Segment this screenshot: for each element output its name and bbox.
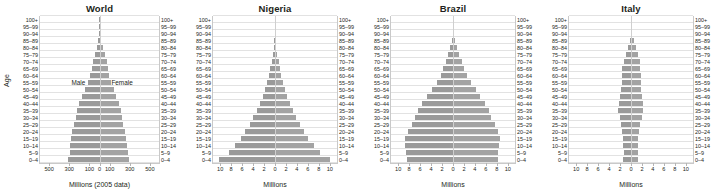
age-tick-label: 55–59 (161, 80, 176, 86)
age-tick-label: 80–84 (374, 45, 389, 51)
bar-female (631, 156, 638, 162)
age-tick-label: 40–44 (552, 101, 567, 107)
age-tick-label: 35–39 (374, 108, 389, 114)
bar-female (100, 128, 126, 134)
age-tick-label: 25–29 (161, 122, 176, 128)
age-tick-label: 95–99 (695, 24, 710, 30)
population-pyramid-figure: Age World0–45–910–1415–1920–2425–2930–34… (0, 0, 720, 191)
age-tick-label: 0–4 (517, 157, 526, 163)
bar-male (446, 58, 453, 64)
age-tick-label: 90–94 (695, 31, 710, 37)
age-tick-label: 75–79 (161, 52, 176, 58)
age-tick-label: 20–24 (374, 129, 389, 135)
age-tick-label: 90–94 (23, 31, 38, 37)
age-tick-label: 20–24 (161, 129, 176, 135)
age-tick-label: 40–44 (196, 101, 211, 107)
x-tick-label: 6 (662, 166, 665, 172)
bar-male (624, 58, 631, 64)
x-tick-label: 8 (317, 166, 320, 172)
bar-male (267, 79, 275, 85)
x-tick-label: 0 (98, 166, 101, 172)
bar-female (100, 156, 129, 162)
x-tick-label: 4 (651, 166, 654, 172)
age-tick-label: 50–54 (695, 87, 710, 93)
bar-male (622, 79, 631, 85)
bar-male (622, 65, 631, 71)
x-tick-label: 4 (430, 166, 433, 172)
x-tick-label: 300 (125, 166, 134, 172)
plot-canvas-italy (568, 16, 694, 163)
panel-title-italy: Italy (542, 2, 720, 16)
age-tick-label: 10–14 (517, 143, 532, 149)
x-axis-brazil: 1086420246810 (390, 163, 516, 174)
x-tick-label: 10 (573, 166, 579, 172)
bar-male (621, 86, 631, 92)
bar-male (623, 156, 631, 162)
age-tick-label: 10–14 (339, 143, 354, 149)
bar-male (622, 72, 631, 78)
bar-female (631, 121, 640, 127)
age-tick-label: 5–9 (339, 150, 348, 156)
bar-male (90, 72, 100, 78)
bar-male (427, 93, 453, 99)
bar-male (622, 128, 631, 134)
age-tick-label: 40–44 (695, 101, 710, 107)
x-axis-italy: 1086420246810 (568, 163, 694, 174)
age-tick-label: 65–69 (552, 66, 567, 72)
plot-area-italy: 0–45–910–1415–1920–2425–2930–3435–3940–4… (542, 16, 720, 163)
age-tick-label: 90–94 (339, 31, 354, 37)
bar-female (453, 156, 498, 162)
age-tick-label: 95–99 (196, 24, 211, 30)
bar-female (631, 100, 643, 106)
age-tick-label: 15–19 (339, 136, 354, 142)
x-tick-label: 0 (273, 166, 276, 172)
age-tick-label: 15–19 (374, 136, 389, 142)
x-tick-label: 100 (105, 166, 114, 172)
x-tick-label: 2 (262, 166, 265, 172)
x-tick-label: 100 (85, 166, 94, 172)
age-tick-label: 70–74 (552, 59, 567, 65)
bar-male (235, 142, 275, 148)
age-tick-label: 95–99 (339, 24, 354, 30)
bar-male (405, 142, 453, 148)
bar-female (100, 79, 112, 85)
age-tick-label: 40–44 (339, 101, 354, 107)
age-tick-label: 20–24 (695, 129, 710, 135)
x-axis-label-italy: Millions (542, 181, 720, 188)
age-tick-label: 25–29 (339, 122, 354, 128)
age-tick-label: 15–19 (695, 136, 710, 142)
x-tick-label: 8 (673, 166, 676, 172)
bar-male (257, 107, 275, 113)
bar-male (623, 135, 631, 141)
bar-male (443, 65, 453, 71)
age-tick-label: 90–94 (552, 31, 567, 37)
bar-male (82, 93, 99, 99)
bar-female (453, 58, 462, 64)
bar-female (275, 135, 308, 141)
x-tick-label: 6 (419, 166, 422, 172)
age-tick-label: 70–74 (339, 59, 354, 65)
age-tick-label: 0–4 (161, 157, 170, 163)
bar-female (631, 79, 641, 85)
bar-male (418, 107, 453, 113)
age-tick-label: 45–49 (23, 94, 38, 100)
age-axis-left-italy: 0–45–910–1415–1920–2425–2930–3435–3940–4… (542, 16, 568, 163)
age-tick-label: 15–19 (196, 136, 211, 142)
age-tick-label: 90–94 (374, 31, 389, 37)
bar-female (275, 156, 330, 162)
age-tick-label: 60–64 (517, 73, 532, 79)
age-tick-label: 0–4 (339, 157, 348, 163)
age-tick-label: 65–69 (339, 66, 354, 72)
age-tick-label: 75–79 (339, 52, 354, 58)
age-tick-label: 55–59 (695, 80, 710, 86)
age-tick-label: 10–14 (374, 143, 389, 149)
bar-female (275, 142, 314, 148)
x-axis-label-brazil: Millions (364, 181, 542, 188)
bar-female (453, 86, 476, 92)
x-tick-label: 10 (327, 166, 333, 172)
bar-female (275, 86, 285, 92)
age-tick-label: 30–34 (161, 115, 176, 121)
bar-female (100, 107, 122, 113)
age-tick-label: 90–94 (196, 31, 211, 37)
bar-female (100, 100, 120, 106)
